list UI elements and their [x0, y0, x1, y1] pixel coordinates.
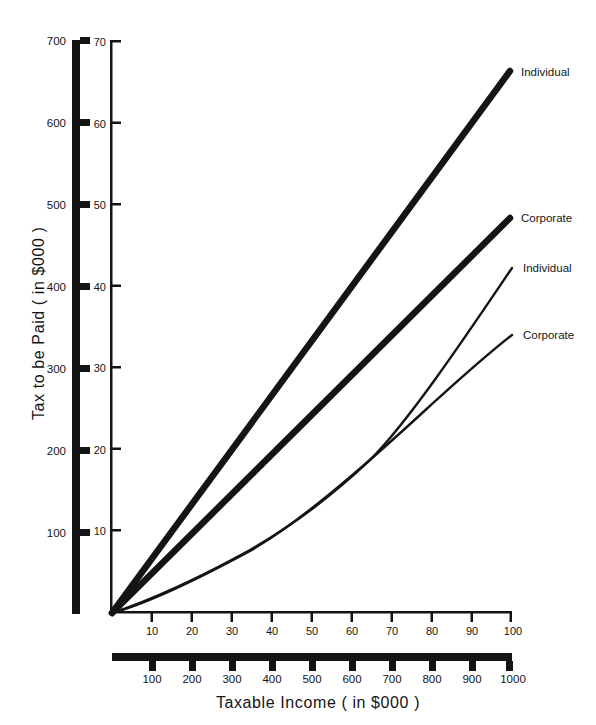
y-axis-outer-tick-500 — [80, 201, 90, 208]
series-line-corporate-thick — [112, 218, 510, 613]
x-axis-inner-label-90: 90 — [466, 625, 478, 637]
x-axis-inner: 10 20 30 40 50 60 70 80 90 100 — [110, 611, 522, 637]
series-line-individual-thick — [112, 71, 510, 613]
y-axis-inner-label-40: 40 — [94, 281, 106, 293]
x-axis-outer-label-500: 500 — [302, 673, 321, 685]
x-axis-outer-tick-800 — [429, 661, 436, 671]
x-axis-outer-tick-100 — [149, 661, 156, 671]
x-axis-inner-label-40: 40 — [266, 625, 278, 637]
x-axis-title: Taxable Income ( in $000 ) — [216, 694, 420, 711]
series-label-individual-thin: Individual — [523, 262, 572, 274]
y-axis-outer-label-600: 600 — [47, 117, 66, 129]
y-axis-outer-tick-400 — [80, 283, 90, 290]
x-axis-outer-label-600: 600 — [342, 673, 361, 685]
series-group — [112, 71, 512, 613]
x-axis-outer-label-800: 800 — [422, 673, 441, 685]
y-axis-inner-label-10: 10 — [94, 525, 106, 537]
x-axis-inner-tick-10 — [151, 613, 154, 622]
x-axis-outer-tick-300 — [229, 661, 236, 671]
y-axis-outer-label-200: 200 — [47, 445, 66, 457]
x-axis-inner-label-50: 50 — [306, 625, 318, 637]
x-axis-outer-label-300: 300 — [222, 673, 241, 685]
x-axis-inner-label-60: 60 — [346, 625, 358, 637]
series-label-corporate-thick: Corporate — [521, 212, 572, 224]
series-label-individual-thick: Individual — [521, 66, 570, 78]
y-axis-inner-label-20: 20 — [94, 444, 106, 456]
x-axis-inner-tick-70 — [391, 613, 394, 622]
y-axis-inner-tick-30 — [112, 366, 121, 369]
x-axis-inner-tick-50 — [311, 613, 314, 622]
y-axis-title: Tax to be Paid ( in $000 ) — [30, 227, 47, 420]
x-axis-inner-tick-80 — [431, 613, 434, 622]
y-axis-inner-tick-60 — [112, 122, 121, 125]
y-axis-inner-label-60: 60 — [94, 118, 106, 130]
y-axis-inner-label-50: 50 — [94, 199, 106, 211]
x-axis-inner-label-70: 70 — [386, 625, 398, 637]
y-axis-inner-tick-50 — [112, 203, 121, 206]
series-label-corporate-thin: Corporate — [523, 329, 574, 341]
y-axis-inner-label-30: 30 — [94, 362, 106, 374]
x-axis-inner-label-30: 30 — [226, 625, 238, 637]
x-axis-inner-label-100: 100 — [504, 625, 522, 637]
x-axis-outer-tick-900 — [469, 661, 476, 671]
x-axis-inner-tick-90 — [471, 613, 474, 622]
x-axis-inner-label-20: 20 — [186, 625, 198, 637]
x-axis-outer-tick-500 — [309, 661, 316, 671]
x-axis-inner-tick-20 — [191, 613, 194, 622]
y-axis-outer-label-700: 700 — [47, 35, 66, 47]
y-axis-inner-tick-40 — [112, 285, 121, 288]
y-axis-outer: 700 600 500 400 300 200 100 — [47, 35, 90, 614]
x-axis-inner-tick-60 — [351, 613, 354, 622]
y-axis-inner-tick-70 — [112, 40, 121, 43]
y-axis-outer-spine — [72, 40, 80, 614]
series-line-corporate-thin — [112, 335, 512, 613]
x-axis-inner-tick-30 — [231, 613, 234, 622]
y-axis-outer-tick-300 — [80, 365, 90, 372]
x-axis-inner-label-80: 80 — [426, 625, 438, 637]
y-axis-outer-label-100: 100 — [47, 527, 66, 539]
x-axis-outer-tick-400 — [269, 661, 276, 671]
x-axis-outer-label-200: 200 — [182, 673, 201, 685]
x-axis-outer-tick-200 — [189, 661, 196, 671]
series-line-individual-thin — [112, 268, 512, 613]
x-axis-outer-spine — [112, 653, 512, 661]
x-axis-outer-label-100: 100 — [142, 673, 161, 685]
chart-page: 700 600 500 400 300 200 100 70 60 50 40 … — [0, 0, 596, 725]
y-axis-outer-tick-700 — [80, 37, 90, 44]
x-axis-outer-label-700: 700 — [382, 673, 401, 685]
x-axis-outer-tick-1000 — [506, 661, 513, 671]
x-axis-outer-label-900: 900 — [462, 673, 481, 685]
y-axis-outer-label-400: 400 — [47, 281, 66, 293]
y-axis-outer-label-300: 300 — [47, 363, 66, 375]
x-axis-outer-tick-700 — [389, 661, 396, 671]
x-axis-outer-label-400: 400 — [262, 673, 281, 685]
x-axis-inner-tick-40 — [271, 613, 274, 622]
y-axis-outer-tick-100 — [80, 529, 90, 536]
x-axis-inner-label-10: 10 — [146, 625, 158, 637]
y-axis-inner-tick-20 — [112, 448, 121, 451]
y-axis-inner-spine — [110, 40, 113, 614]
x-axis-inner-tick-100 — [510, 613, 513, 622]
y-axis-outer-tick-200 — [80, 447, 90, 454]
y-axis-inner-tick-10 — [112, 529, 121, 532]
x-axis-outer-tick-600 — [349, 661, 356, 671]
y-axis-outer-label-500: 500 — [47, 199, 66, 211]
x-axis-outer: 100 200 300 400 500 600 700 800 900 1000 — [112, 653, 526, 685]
y-axis-inner-label-70: 70 — [94, 36, 106, 48]
tax-vs-income-line-chart: 700 600 500 400 300 200 100 70 60 50 40 … — [0, 0, 596, 725]
x-axis-outer-label-1000: 1000 — [500, 673, 526, 685]
y-axis-outer-tick-600 — [80, 119, 90, 126]
y-axis-inner: 70 60 50 40 30 20 10 — [94, 36, 121, 614]
